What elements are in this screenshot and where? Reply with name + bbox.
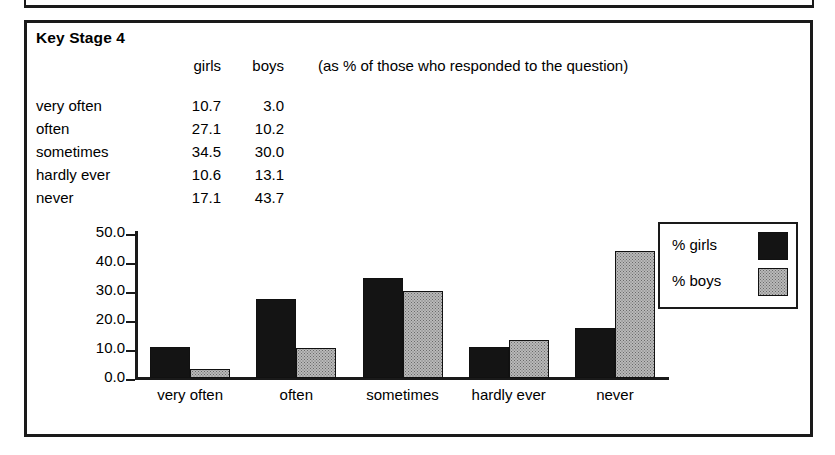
bar-girls-never <box>575 328 615 378</box>
y-axis-tick-label: 20.0 <box>55 310 125 327</box>
legend-item-boys: % boys <box>672 268 790 298</box>
legend-swatch-girls <box>758 232 788 260</box>
y-axis-tick-mark <box>126 379 135 381</box>
y-axis-tick-mark <box>126 321 135 323</box>
y-axis-tick-label: 10.0 <box>55 339 125 356</box>
chart-legend: % girls % boys <box>658 222 798 309</box>
bar-boys-hardly-ever <box>509 340 549 378</box>
y-axis-line <box>135 231 138 379</box>
y-axis-tick-label: 0.0 <box>55 368 125 385</box>
bar-girls-hardly-ever <box>469 347 509 378</box>
y-axis-tick-label: 50.0 <box>55 223 125 240</box>
legend-label-boys: % boys <box>672 272 721 289</box>
bar-girls-sometimes <box>363 278 403 378</box>
legend-label-girls: % girls <box>672 236 717 253</box>
y-axis-tick-mark <box>126 292 135 294</box>
bar-boys-often <box>296 348 336 378</box>
bar-girls-very-often <box>150 347 190 378</box>
y-axis-tick-mark <box>126 350 135 352</box>
legend-item-girls: % girls <box>672 232 790 262</box>
x-axis-label-never: never <box>545 386 685 403</box>
y-axis-tick-label: 30.0 <box>55 281 125 298</box>
bar-girls-often <box>256 299 296 378</box>
y-axis-tick-label: 40.0 <box>55 252 125 269</box>
bar-boys-never <box>615 251 655 378</box>
y-axis-tick-mark <box>126 234 135 236</box>
bar-boys-very-often <box>190 369 230 378</box>
legend-swatch-boys <box>758 268 788 296</box>
y-axis-tick-mark <box>126 263 135 265</box>
bar-boys-sometimes <box>403 291 443 378</box>
